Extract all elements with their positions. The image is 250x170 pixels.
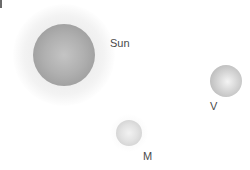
mercury-label: M (143, 151, 152, 162)
venus-sphere (210, 65, 242, 97)
mercury-sphere (116, 120, 142, 146)
corner-mark (0, 0, 2, 8)
solar-diagram: Sun V M (0, 0, 250, 170)
sun-sphere (33, 24, 95, 86)
sun-label: Sun (110, 38, 130, 49)
venus-label: V (210, 101, 217, 112)
